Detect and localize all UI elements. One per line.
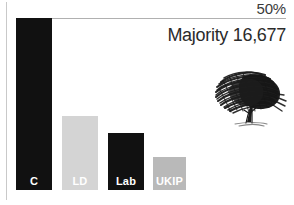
bar-label-ukip: UKIP [153, 175, 186, 187]
bar-ukip: UKIP [153, 157, 186, 190]
election-result-bar-chart: 50% Majority 16,677 C LD Lab UKIP [0, 0, 294, 205]
fifty-percent-reference-line [16, 18, 286, 19]
bar-conservative: C [16, 18, 52, 190]
bar-liberal-democrat: LD [62, 116, 98, 190]
majority-annotation: Majority 16,677 [167, 24, 286, 46]
bar-label-liberal-democrat: LD [62, 175, 98, 187]
bar-label-labour: Lab [108, 175, 144, 187]
bar-label-conservative: C [16, 175, 52, 187]
y-axis-line [6, 2, 7, 200]
axis-tick-label-50-percent: 50% [257, 0, 286, 17]
bar-fill-conservative [16, 18, 52, 190]
conservative-oak-tree-logo-icon [207, 64, 289, 128]
bar-labour: Lab [108, 133, 144, 190]
